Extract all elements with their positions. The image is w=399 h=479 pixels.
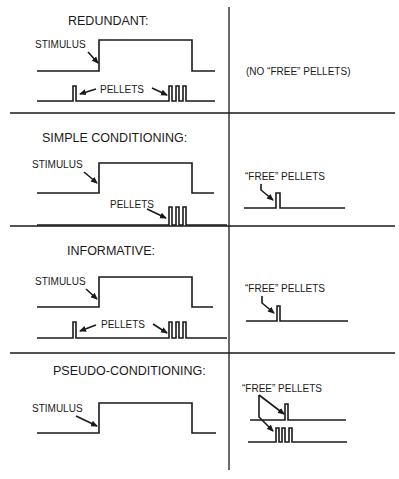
stimulus-label: STIMULUS [35,276,86,287]
free-pellet-burst-trace [248,428,347,442]
conditioning-timing-diagram: REDUNDANT: STIMULUS PELLETS (NO “FREE” P… [0,0,399,479]
pellets-label: PELLETS [100,84,144,95]
arrow-icon [259,395,284,414]
free-pellets-label: “FREE” PELLETS [245,283,325,294]
arrow-icon [88,52,98,63]
panel-redundant: REDUNDANT: STIMULUS PELLETS (NO “FREE” P… [35,14,350,101]
panel-informative: INFORMATIVE: STIMULUS PELLETS “FREE” PEL… [35,244,348,338]
pellets-label: PELLETS [110,199,154,210]
no-free-pellets-note: (NO “FREE” PELLETS) [246,66,350,77]
pellets-label: PELLETS [101,319,145,330]
panel-title: SIMPLE CONDITIONING: [42,131,187,145]
stimulus-label: STIMULUS [35,39,86,50]
free-pellets-trace [246,306,348,321]
free-pellets-label: “FREE” PELLETS [245,171,325,182]
arrow-icon [84,172,97,183]
arrow-icon [152,88,167,95]
panel-title: REDUNDANT: [68,14,149,28]
arrow-icon [80,325,96,331]
arrow-icon [153,324,167,333]
free-pellets-trace [244,193,345,208]
panel-simple-conditioning: SIMPLE CONDITIONING: STIMULUS PELLETS “F… [32,131,345,225]
free-pellet-single-trace [250,404,346,420]
arrow-icon [76,416,97,426]
arrow-icon [80,89,96,94]
arrow-icon [147,209,166,218]
stimulus-label: STIMULUS [32,403,83,414]
arrow-icon [261,184,273,200]
arrow-icon [86,289,97,299]
panel-title: INFORMATIVE: [67,244,155,258]
panel-title: PSEUDO-CONDITIONING: [53,364,206,378]
free-pellets-label: “FREE” PELLETS [242,383,322,394]
arrow-icon [262,296,274,313]
panel-pseudo-conditioning: PSEUDO-CONDITIONING: STIMULUS “FREE” PEL… [32,364,347,442]
stimulus-label: STIMULUS [32,159,83,170]
